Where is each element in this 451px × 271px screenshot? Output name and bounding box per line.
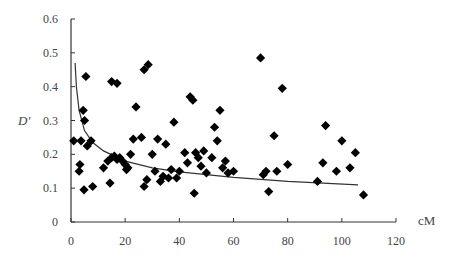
data-point-diamond bbox=[180, 148, 189, 157]
data-point-diamond bbox=[79, 185, 88, 194]
data-point-diamond bbox=[88, 182, 97, 191]
data-point-diamond bbox=[196, 162, 205, 171]
data-point-diamond bbox=[264, 187, 273, 196]
data-point-diamond bbox=[167, 165, 176, 174]
data-point-diamond bbox=[129, 135, 138, 144]
data-point-diamond bbox=[137, 133, 146, 142]
y-axis-title: D' bbox=[17, 113, 30, 128]
x-tick-label: 20 bbox=[119, 234, 131, 248]
data-point-diamond bbox=[332, 167, 341, 176]
data-point-diamond bbox=[153, 135, 162, 144]
data-point-diamond bbox=[81, 72, 90, 81]
data-point-diamond bbox=[270, 131, 279, 140]
x-axis-title: cM bbox=[418, 213, 436, 228]
data-point-diamond bbox=[99, 163, 108, 172]
data-point-diamond bbox=[337, 136, 346, 145]
y-tick-label: 0.3 bbox=[43, 114, 58, 128]
x-tick-label: 80 bbox=[282, 234, 294, 248]
data-point-diamond bbox=[283, 160, 292, 169]
data-point-diamond bbox=[213, 136, 222, 145]
x-tick-label: 120 bbox=[387, 234, 405, 248]
x-tick-label: 100 bbox=[333, 234, 351, 248]
data-points bbox=[69, 53, 368, 199]
data-point-diamond bbox=[131, 102, 140, 111]
data-point-diamond bbox=[190, 189, 199, 198]
data-point-diamond bbox=[321, 121, 330, 130]
axis-labels: 00.10.20.30.40.50.6020406080100120cMD' bbox=[17, 12, 436, 248]
data-point-diamond bbox=[202, 168, 211, 177]
data-point-diamond bbox=[256, 53, 265, 62]
data-point-diamond bbox=[169, 118, 178, 127]
y-tick-label: 0.1 bbox=[43, 181, 58, 195]
scatter-chart: 00.10.20.30.40.50.6020406080100120cMD' bbox=[0, 0, 451, 271]
data-point-diamond bbox=[313, 177, 322, 186]
y-tick-label: 0.4 bbox=[43, 80, 58, 94]
data-point-diamond bbox=[318, 158, 327, 167]
data-point-diamond bbox=[359, 190, 368, 199]
data-point-diamond bbox=[278, 84, 287, 93]
data-point-diamond bbox=[183, 158, 192, 167]
data-point-diamond bbox=[75, 167, 84, 176]
data-point-diamond bbox=[210, 123, 219, 132]
data-point-diamond bbox=[126, 150, 135, 159]
data-point-diamond bbox=[161, 140, 170, 149]
data-point-diamond bbox=[76, 136, 85, 145]
data-point-diamond bbox=[351, 148, 360, 157]
y-tick-label: 0.6 bbox=[43, 12, 58, 26]
data-point-diamond bbox=[215, 106, 224, 115]
data-point-diamond bbox=[105, 178, 114, 187]
data-point-diamond bbox=[148, 150, 157, 159]
x-tick-label: 60 bbox=[228, 234, 240, 248]
y-tick-label: 0.2 bbox=[43, 147, 58, 161]
axes bbox=[71, 19, 396, 222]
y-tick-label: 0 bbox=[52, 215, 58, 229]
x-tick-label: 40 bbox=[173, 234, 185, 248]
data-point-diamond bbox=[207, 153, 216, 162]
y-tick-label: 0.5 bbox=[43, 46, 58, 60]
data-point-diamond bbox=[272, 167, 281, 176]
x-tick-label: 0 bbox=[68, 234, 74, 248]
data-point-diamond bbox=[199, 146, 208, 155]
data-point-diamond bbox=[345, 163, 354, 172]
